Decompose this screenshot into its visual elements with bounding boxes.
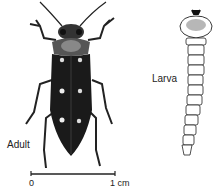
adult-label: Adult [7,139,30,150]
adult-beetle-illustration [26,2,114,168]
larva-illustration [180,10,212,155]
scale-end-label: 1 cm [110,178,130,188]
scale-bar [31,171,115,176]
scale-start-label: 0 [29,178,34,188]
figure-illustration [0,0,218,196]
larva-label: Larva [152,73,177,84]
